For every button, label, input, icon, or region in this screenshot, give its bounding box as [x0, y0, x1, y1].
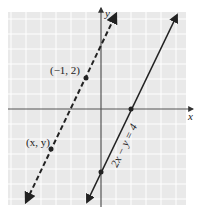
x-axis-label: x: [187, 110, 193, 122]
y-intercept-point: [99, 170, 104, 175]
point-neg1-2-label: (−1, 2): [50, 64, 80, 77]
point-neg1-2: [84, 76, 89, 81]
coordinate-plane: x y (−1, 2) (x, y) 2x − y = 4: [0, 0, 203, 214]
x-intercept-point: [129, 107, 134, 112]
y-axis-label: y: [104, 7, 110, 19]
point-x-y-label: (x, y): [26, 136, 50, 149]
